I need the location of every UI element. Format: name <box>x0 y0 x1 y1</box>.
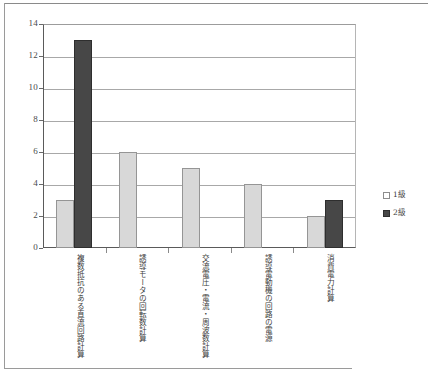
y-axis-tick-label: 4 <box>12 179 38 188</box>
legend-item-label: 1級 <box>393 191 405 199</box>
bar-1級-誘導モータの回転数計算 <box>119 152 137 248</box>
x-axis-separator <box>168 248 169 253</box>
bar-chart: 02468101214 複数抵抗のある直流回路計算誘導モータの回転数計算交流電圧… <box>0 0 433 388</box>
y-axis-tick-label: 8 <box>12 115 38 124</box>
y-axis-tick-label: 6 <box>12 147 38 156</box>
y-axis-tick-label: 10 <box>12 83 38 92</box>
bar-2級-消費電力計算 <box>325 200 343 248</box>
x-axis-separator <box>293 248 294 253</box>
x-axis-separator <box>231 248 232 253</box>
series-1-swatch <box>383 192 390 199</box>
series-2-swatch <box>383 210 390 217</box>
legend-item: 2級 <box>383 204 431 222</box>
legend-item: 1級 <box>383 186 431 204</box>
y-axis-tick-label: 12 <box>12 51 38 60</box>
bar-2級-複数抵抗のある直流回路計算 <box>74 40 92 248</box>
chart-legend: 1級2級 <box>383 186 431 222</box>
y-axis-tick-label: 0 <box>12 243 38 252</box>
bars-layer <box>43 24 356 248</box>
y-axis-tick-labels: 02468101214 <box>8 24 38 248</box>
bar-1級-交流電圧・電流・周波数計算 <box>182 168 200 248</box>
x-axis-category-label: 複数抵抗のある直流回路計算 <box>65 254 83 358</box>
x-axis-category-label: 交流電圧・電流・周波数計算 <box>191 254 209 358</box>
x-axis-category-label: 誘導電動機の回路の電源 <box>253 254 271 342</box>
y-axis-tick-label: 14 <box>12 19 38 28</box>
x-axis-category-label: 消費電力計算 <box>316 254 334 302</box>
bar-1級-誘導電動機の回路の電源 <box>244 184 262 248</box>
x-axis-category-labels: 複数抵抗のある直流回路計算誘導モータの回転数計算交流電圧・電流・周波数計算誘導電… <box>43 254 356 386</box>
bar-1級-消費電力計算 <box>307 216 325 248</box>
legend-item-label: 2級 <box>393 209 405 217</box>
y-axis-tick-label: 2 <box>12 211 38 220</box>
x-axis-separator <box>106 248 107 253</box>
bar-1級-複数抵抗のある直流回路計算 <box>56 200 74 248</box>
x-axis-category-label: 誘導モータの回転数計算 <box>128 254 146 342</box>
